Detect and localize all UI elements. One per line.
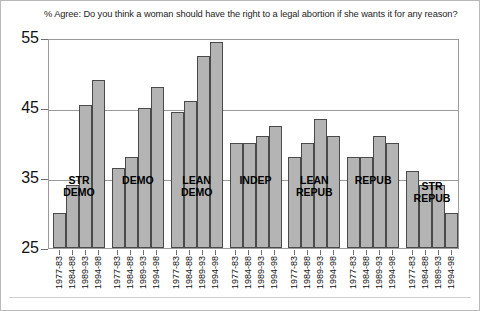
x-tick-label: 1984-88 [361,256,371,289]
x-tick-label: 1994-98 [93,256,103,289]
y-tick-mark-45 [41,109,48,110]
x-tick-mark [202,250,203,255]
x-tick-mark [451,250,452,255]
x-tick-mark [307,250,308,255]
bar[interactable] [347,157,360,248]
bar[interactable] [79,105,92,249]
bar[interactable] [92,80,105,248]
footer-divider [9,297,471,298]
x-tick-label: 1994-98 [387,256,397,289]
y-tick-label-25: 25 [5,240,39,256]
x-tick-mark [98,250,99,255]
x-tick-mark [353,250,354,255]
x-tick-label: 1989-93 [80,256,90,289]
x-tick-mark [189,250,190,255]
x-tick-label: 1989-93 [433,256,443,289]
bar[interactable] [386,143,399,248]
x-tick-label: 1989-93 [138,256,148,289]
bar-group-repub [347,40,399,248]
y-tick-label-35: 35 [5,170,39,186]
bar-group-str-repub [406,40,458,248]
x-tick-mark [215,250,216,255]
x-tick-label: 1977-83 [112,256,122,289]
bar[interactable] [406,171,419,248]
x-tick-label: 1989-93 [197,256,207,289]
y-tick-mark-25 [41,249,48,250]
x-tick-label: 1984-88 [125,256,135,289]
x-tick-mark [274,250,275,255]
chart-container: % Agree: Do you think a woman should hav… [0,0,480,311]
x-tick-label: 1994-98 [328,256,338,289]
x-tick-label: 1994-98 [446,256,456,289]
bar[interactable] [288,157,301,248]
bar[interactable] [151,87,164,248]
x-tick-mark [392,250,393,255]
y-tick-label-45: 45 [5,100,39,116]
x-tick-label: 1984-88 [302,256,312,289]
bar[interactable] [53,213,66,248]
x-tick-mark [176,250,177,255]
x-tick-mark [85,250,86,255]
bar[interactable] [373,136,386,248]
x-tick-label: 1994-98 [151,256,161,289]
x-tick-mark [248,250,249,255]
x-tick-label: 1984-88 [243,256,253,289]
x-tick-label: 1977-83 [54,256,64,289]
x-tick-mark [333,250,334,255]
y-tick-mark-55 [41,39,48,40]
bar-group-lean-repub [288,40,340,248]
x-tick-mark [59,250,60,255]
bar[interactable] [171,112,184,249]
x-tick-label: 1989-93 [315,256,325,289]
bar[interactable] [112,168,125,249]
bar[interactable] [314,119,327,249]
bar[interactable] [184,101,197,248]
bar[interactable] [66,185,79,248]
bar[interactable] [243,143,256,248]
x-tick-mark [379,250,380,255]
bar[interactable] [419,185,432,248]
x-tick-mark [294,250,295,255]
bar[interactable] [256,136,269,248]
plot-area: STR DEMODEMOLEAN DEMOINDEPLEAN REPUBREPU… [48,39,459,249]
x-tick-mark [156,250,157,255]
x-tick-label: 1977-83 [407,256,417,289]
x-tick-label: 1989-93 [256,256,266,289]
x-tick-label: 1984-88 [67,256,77,289]
bar[interactable] [210,42,223,249]
x-tick-mark [130,250,131,255]
x-tick-label: 1977-83 [289,256,299,289]
x-tick-mark [117,250,118,255]
x-tick-label: 1977-83 [230,256,240,289]
bar[interactable] [230,143,243,248]
bar[interactable] [125,157,138,248]
x-tick-label: 1984-88 [420,256,430,289]
x-tick-label: 1977-83 [171,256,181,289]
x-tick-label: 1977-83 [348,256,358,289]
x-tick-mark [143,250,144,255]
bar-group-indep [230,40,282,248]
x-tick-mark [438,250,439,255]
bar[interactable] [445,213,458,248]
x-tick-mark [261,250,262,255]
bar[interactable] [301,143,314,248]
x-tick-mark [235,250,236,255]
x-tick-mark [425,250,426,255]
bar[interactable] [432,185,445,248]
bar[interactable] [269,126,282,249]
bar-group-demo [112,40,164,248]
x-tick-mark [412,250,413,255]
bar[interactable] [138,108,151,248]
chart-title: % Agree: Do you think a woman should hav… [44,9,457,19]
x-tick-label: 1984-88 [184,256,194,289]
y-tick-mark-35 [41,179,48,180]
x-tick-mark [366,250,367,255]
bar-group-str-demo [53,40,105,248]
x-tick-label: 1989-93 [374,256,384,289]
x-tick-label: 1994-98 [210,256,220,289]
x-tick-mark [72,250,73,255]
bar[interactable] [360,157,373,248]
bar[interactable] [197,56,210,249]
bar[interactable] [327,136,340,248]
bar-group-lean-demo [171,40,223,248]
